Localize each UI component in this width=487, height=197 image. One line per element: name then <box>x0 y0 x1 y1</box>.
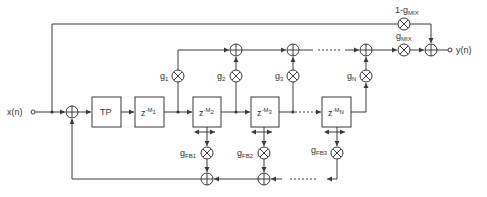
feedback-gain-2-label: gFB2 <box>237 148 254 159</box>
g1-to-adder <box>178 50 229 70</box>
tap-multiplier-n: gN <box>347 70 372 82</box>
multitap-delay-block-diagram: x(n) 1-gMIX TP z-M1 z-M2 z-M3 <box>0 0 487 197</box>
lowpass-label: TP <box>100 107 112 117</box>
input-label: x(n) <box>7 107 23 117</box>
tap-gain-n-label: gN <box>347 71 356 82</box>
wet-gain-multiplier <box>398 44 410 56</box>
dry-gain-label: 1-gMIX <box>395 5 419 16</box>
wet-gain-label: gMIX <box>396 31 412 42</box>
output-adder <box>425 44 437 56</box>
feedback-adder-2 <box>258 173 270 185</box>
feedback-tap-slider-1 <box>199 127 215 146</box>
tap-gain-1-label: g1 <box>160 71 169 82</box>
tap-gain-3-label: g3 <box>275 71 284 82</box>
input-terminal: x(n) <box>7 107 35 117</box>
tap-adder-n <box>360 44 372 56</box>
dry-path-to-output <box>410 24 431 43</box>
tap-adder-2 <box>230 44 242 56</box>
fb3-return-line <box>327 159 337 179</box>
delay-block-2: z-M2 <box>193 97 221 127</box>
delayN-to-gN <box>351 83 366 112</box>
feedback-gain-3-label: gFB3 <box>311 145 328 156</box>
feedback-gain-1-label: gFB1 <box>180 148 197 159</box>
tap-gain-2-label: g2 <box>217 71 226 82</box>
feedback-multiplier-2: gFB2 <box>237 147 270 159</box>
feedback-multiplier-1: gFB1 <box>180 147 213 159</box>
delay-block-3: z-M3 <box>251 97 279 127</box>
feedback-tap-slider-3 <box>329 127 345 146</box>
dry-gain-multiplier <box>398 18 410 30</box>
tap-adder-3 <box>287 44 299 56</box>
output-terminal: y(n) <box>448 45 472 55</box>
lowpass-filter-block: TP <box>92 97 121 127</box>
feedback-multiplier-3: gFB3 <box>311 145 343 159</box>
output-label: y(n) <box>456 45 472 55</box>
delay-block-n: z-MN <box>322 97 351 127</box>
delay-block-1: z-M1 <box>135 97 164 127</box>
feedback-adder-1 <box>201 173 213 185</box>
feedback-tap-slider-2 <box>256 127 272 146</box>
input-feedback-adder <box>66 106 78 118</box>
